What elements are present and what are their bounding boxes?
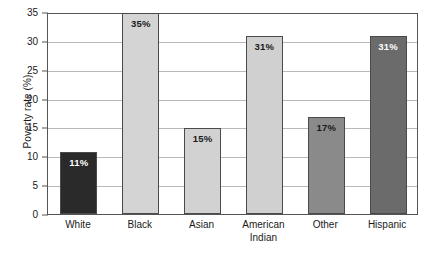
- bar-value-label: 15%: [193, 134, 213, 144]
- y-axis-tick-label: 10: [27, 152, 38, 162]
- bar-hispanic: 31%: [370, 36, 407, 214]
- poverty-rate-bar-chart: Poverty rate (%) 05101520253035 11%35%15…: [0, 0, 432, 261]
- bar-asian: 15%: [184, 128, 221, 214]
- y-axis-tick-label: 30: [27, 37, 38, 47]
- bar-value-label: 31%: [378, 42, 398, 52]
- y-axis-tick-label: 5: [32, 181, 38, 191]
- bars-layer: 11%35%15%31%17%31%: [48, 14, 417, 214]
- y-axis-tick-labels: 05101520253035: [0, 0, 48, 261]
- bar-value-label: 17%: [316, 123, 336, 133]
- x-axis-label-black: Black: [109, 219, 171, 232]
- plot-area: 11%35%15%31%17%31%: [47, 13, 418, 215]
- bar-value-label: 35%: [131, 19, 151, 29]
- bar-value-label: 11%: [69, 158, 88, 168]
- y-axis-tick-label: 35: [27, 8, 38, 18]
- y-axis-tick-label: 15: [27, 123, 38, 133]
- x-axis-label-line: Other: [294, 219, 356, 232]
- bar-other: 17%: [308, 117, 345, 214]
- x-axis-label-other: Other: [294, 219, 356, 232]
- bar-value-label: 31%: [255, 42, 275, 52]
- bar-white: 11%: [60, 152, 97, 214]
- x-axis-label-asian: Asian: [171, 219, 233, 232]
- y-axis-tick-label: 25: [27, 66, 38, 76]
- x-axis-category-labels: WhiteBlackAsianAmericanIndianOtherHispan…: [47, 219, 418, 261]
- x-axis-label-line: American: [233, 219, 295, 232]
- bar-american-indian: 31%: [246, 36, 283, 214]
- bar-black: 35%: [122, 13, 159, 214]
- x-axis-label-line: White: [47, 219, 109, 232]
- x-axis-label-hispanic: Hispanic: [356, 219, 418, 232]
- x-axis-label-american-indian: AmericanIndian: [233, 219, 295, 244]
- y-axis-tick-label: 20: [27, 95, 38, 105]
- x-axis-label-line: Indian: [233, 232, 295, 245]
- x-axis-label-line: Hispanic: [356, 219, 418, 232]
- x-axis-label-line: Black: [109, 219, 171, 232]
- x-axis-label-white: White: [47, 219, 109, 232]
- x-axis-label-line: Asian: [171, 219, 233, 232]
- y-axis-tick-label: 0: [32, 210, 38, 220]
